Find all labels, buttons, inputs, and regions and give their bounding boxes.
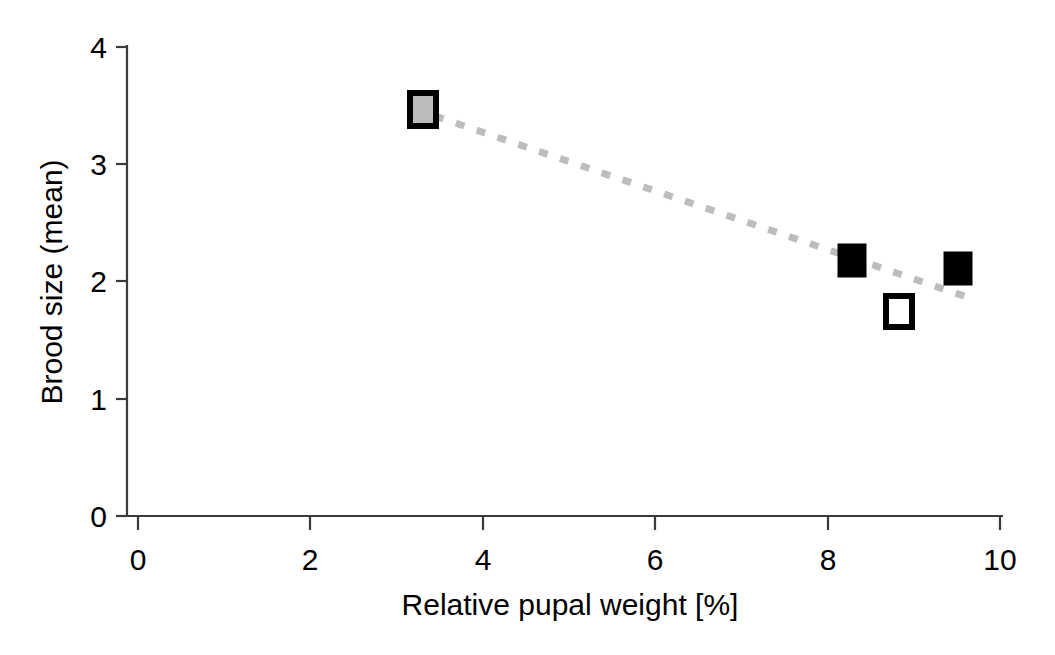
y-axis-title: Brood size (mean) bbox=[35, 159, 68, 404]
scatter-plot: 4 3 2 1 0 0 2 4 6 8 10 Relative pupal we… bbox=[0, 0, 1055, 655]
x-tick-label-0: 0 bbox=[130, 543, 147, 576]
x-tick-label-10: 10 bbox=[983, 543, 1016, 576]
y-tick-label-3: 3 bbox=[90, 148, 107, 181]
x-axis-title: Relative pupal weight [%] bbox=[402, 588, 739, 621]
data-marker-black-square-2 bbox=[944, 252, 972, 285]
x-tick-label-6: 6 bbox=[647, 543, 664, 576]
data-marker-gray-square bbox=[410, 93, 436, 126]
x-tick-label-2: 2 bbox=[302, 543, 319, 576]
y-tick-label-0: 0 bbox=[90, 500, 107, 533]
data-marker-open-square bbox=[886, 296, 912, 327]
data-marker-black-square-1 bbox=[838, 244, 866, 277]
y-tick-label-1: 1 bbox=[90, 383, 107, 416]
y-tick-label-2: 2 bbox=[90, 265, 107, 298]
y-tick-label-4: 4 bbox=[90, 31, 107, 64]
x-tick-label-8: 8 bbox=[820, 543, 837, 576]
figure-root: 4 3 2 1 0 0 2 4 6 8 10 Relative pupal we… bbox=[0, 0, 1055, 655]
x-tick-label-4: 4 bbox=[475, 543, 492, 576]
